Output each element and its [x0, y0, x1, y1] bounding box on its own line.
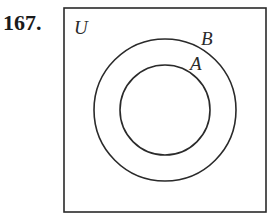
- venn-diagram: U B A: [0, 0, 271, 221]
- set-a-label: A: [188, 53, 202, 74]
- set-b-circle: [94, 39, 236, 181]
- set-a-circle: [120, 65, 210, 155]
- set-b-label: B: [201, 28, 213, 49]
- universe-label: U: [74, 17, 89, 38]
